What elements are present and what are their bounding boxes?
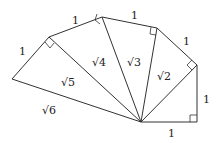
- edge-sqrt6: [12, 79, 141, 122]
- edge-sqrt4: [102, 17, 141, 122]
- spiral-diagram: 1 1 1 1 1 1 √2 √3 √4 √5 √6: [0, 0, 218, 143]
- right-angle-marker-1: [190, 115, 197, 122]
- right-angle-marker-3: [150, 27, 156, 35]
- edge-unit-4: [102, 17, 157, 28]
- label-sqrt4: √4: [92, 56, 106, 69]
- label-sqrt5: √5: [61, 76, 75, 89]
- right-angle-marker-2: [187, 60, 192, 70]
- label-sqrt6: √6: [42, 104, 56, 117]
- edge-unit-6: [12, 37, 49, 79]
- label-unit-upper-right: 1: [183, 35, 190, 48]
- label-unit-right: 1: [203, 93, 210, 106]
- label-sqrt3: √3: [127, 56, 141, 69]
- right-angle-marker-5: [45, 42, 54, 48]
- label-sqrt2: √2: [157, 70, 171, 83]
- label-unit-top-right: 1: [131, 9, 138, 22]
- label-unit-bottom: 1: [168, 127, 175, 140]
- label-unit-left: 1: [19, 45, 26, 58]
- edge-unit-3: [157, 28, 197, 65]
- label-unit-top-left: 1: [72, 14, 79, 27]
